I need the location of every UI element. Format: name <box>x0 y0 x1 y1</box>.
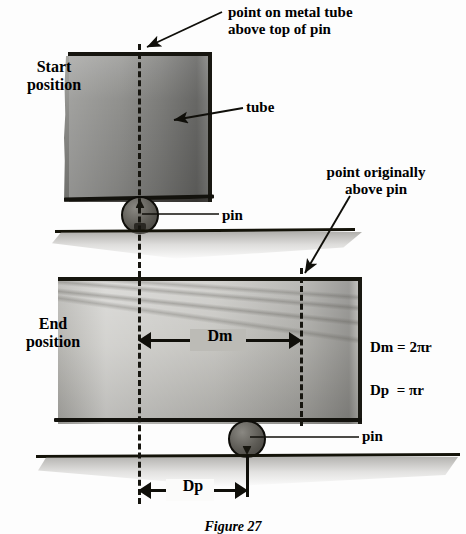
label-pin-start: pin <box>222 207 243 224</box>
tube-end-bottom-edge <box>54 418 362 422</box>
pin-end-position <box>228 420 266 458</box>
dimension-dm-label: Dm <box>202 327 239 345</box>
leader-point-on-metal-tube <box>147 12 222 47</box>
arrow-head-right-icon <box>235 482 248 499</box>
label-point-on-metal-tube: point on metal tube above top of pin <box>228 4 353 38</box>
dashed-reference-line-origin <box>138 44 141 504</box>
ground-line-start <box>55 228 355 233</box>
figure-canvas: Dm Dp point on metal tube above top of p… <box>0 0 466 534</box>
equation-dm: Dm = 2πr <box>370 337 432 359</box>
ground-shading-start <box>52 232 362 260</box>
dimension-dp: Dp <box>138 481 248 499</box>
label-pin-end: pin <box>362 428 383 445</box>
arrow-head-right-icon <box>289 332 302 349</box>
dimension-dp-label: Dp <box>177 477 209 495</box>
label-tube: tube <box>246 99 274 116</box>
label-start-position: Start position <box>12 58 96 94</box>
label-point-originally-above-pin: point originally above pin <box>292 164 460 198</box>
label-end-position: End position <box>8 315 98 351</box>
equation-dp: Dp = πr <box>370 380 432 402</box>
figure-caption: Figure 27 <box>0 519 466 534</box>
dimension-dm: Dm <box>138 331 302 349</box>
equations-block: Dm = 2πr Dp = πr <box>370 315 432 424</box>
leader-point-originally-above-pin <box>305 196 350 273</box>
